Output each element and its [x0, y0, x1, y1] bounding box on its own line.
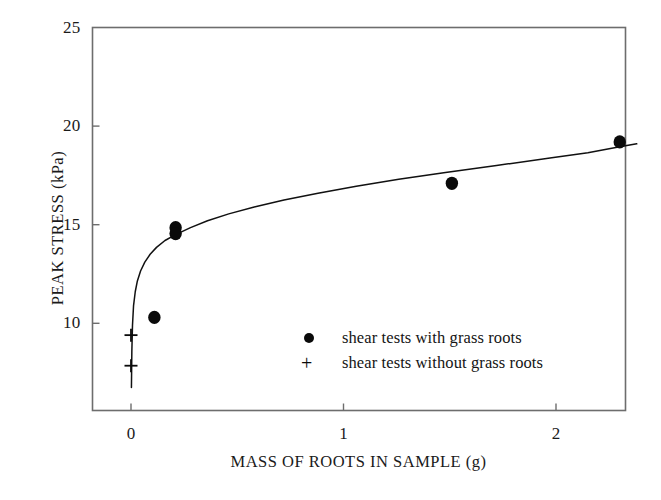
legend-label-with-roots: shear tests with grass roots	[342, 328, 522, 348]
legend-item-without-roots: + shear tests without grass roots	[296, 350, 616, 375]
legend-filled-circle-icon	[296, 325, 342, 350]
x-axis-tick-label-0: 0	[127, 424, 136, 444]
legend-plus-icon: +	[296, 350, 342, 375]
y-axis-title: PEAK STRESS (kPa)	[48, 108, 68, 348]
chart-legend: shear tests with grass roots + shear tes…	[296, 325, 616, 375]
x-axis-title: MASS OF ROOTS IN SAMPLE (g)	[92, 452, 625, 472]
y-axis-tick-label-25: 25	[33, 18, 81, 38]
chart-figure: 25 20 15 10 0 1 2 PEAK STRESS (kPa) MASS…	[0, 0, 661, 500]
x-axis-tick-label-2: 2	[552, 424, 561, 444]
x-axis-tick-label-1: 1	[339, 424, 348, 444]
plus-glyph: +	[301, 353, 312, 373]
legend-item-with-roots: shear tests with grass roots	[296, 325, 616, 350]
plot-canvas	[0, 0, 661, 500]
legend-label-without-roots: shear tests without grass roots	[342, 353, 543, 373]
